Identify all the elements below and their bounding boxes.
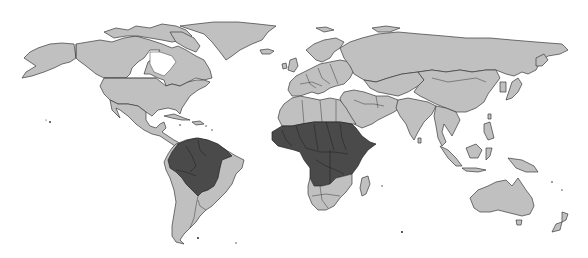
new-zealand-south (552, 222, 562, 232)
taiwan (488, 114, 491, 119)
southeast-asia (434, 106, 460, 146)
south-america (164, 138, 244, 244)
iceland (260, 49, 274, 54)
africa-endemic (272, 122, 376, 186)
borneo (466, 144, 482, 158)
uk-ireland (288, 58, 298, 72)
hispaniola (192, 121, 204, 125)
tasmania (516, 220, 522, 225)
cuba (164, 114, 190, 120)
madagascar (360, 176, 370, 196)
oceania (381, 178, 568, 233)
new-guinea (508, 158, 538, 172)
australia (470, 178, 534, 216)
ireland (282, 63, 287, 69)
sri-lanka (418, 138, 421, 143)
svalbard (316, 27, 334, 32)
philippines (484, 122, 494, 140)
scandinavia (306, 38, 344, 62)
sumatra (440, 146, 462, 166)
korea (500, 82, 506, 92)
arctic-russia-islands (372, 26, 400, 32)
alaska (22, 43, 76, 78)
new-zealand-north (562, 212, 568, 222)
japan (506, 78, 522, 100)
world-map (0, 0, 588, 258)
north-america (22, 22, 276, 148)
sulawesi (486, 148, 492, 160)
java (462, 168, 486, 172)
india-south-asia (396, 98, 436, 140)
